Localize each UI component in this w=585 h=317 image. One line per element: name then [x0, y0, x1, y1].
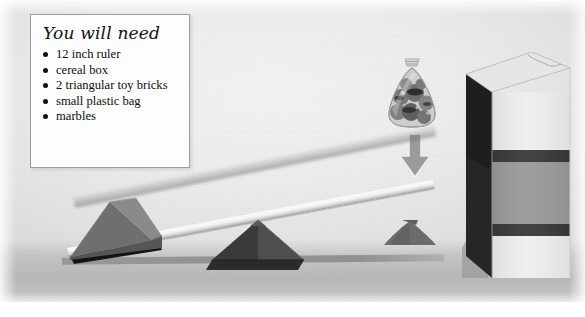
edge-vignette: [0, 0, 585, 302]
bottom-fade: [0, 292, 585, 317]
illustration-canvas: You will need 12 inch ruler cereal box 2…: [0, 0, 585, 317]
